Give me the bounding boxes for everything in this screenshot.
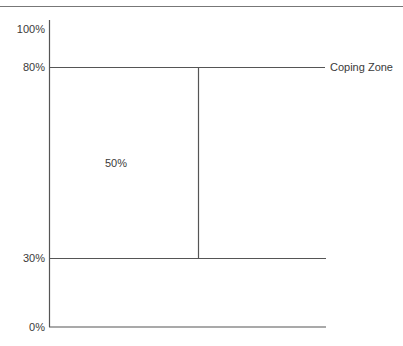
tick-label-30: 30% xyxy=(23,252,45,264)
coping-zone-diagram: 100% 80% 30% 0% 50% Coping Zone xyxy=(0,0,403,346)
tick-label-0: 0% xyxy=(29,321,45,333)
tick-label-100: 100% xyxy=(17,23,45,35)
zone-width-label: 50% xyxy=(105,157,127,169)
tick-label-80: 80% xyxy=(23,61,45,73)
zone-name-label: Coping Zone xyxy=(330,61,393,73)
